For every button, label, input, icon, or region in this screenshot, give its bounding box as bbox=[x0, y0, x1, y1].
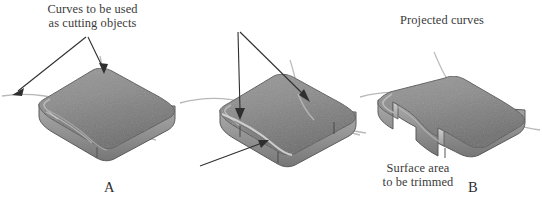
figure-trim-surface: Curves to be used as cutting objects A bbox=[0, 0, 542, 203]
panel-c: C bbox=[360, 0, 542, 203]
panel-c-graphic bbox=[360, 0, 542, 203]
cutting-curves-arrow-right-shaft bbox=[88, 37, 102, 66]
panel-a: Curves to be used as cutting objects A bbox=[0, 0, 182, 203]
cutting-curves-arrow-left-head bbox=[12, 88, 24, 96]
cut-wall-left bbox=[393, 102, 398, 119]
cut-wall-right bbox=[438, 128, 444, 146]
panel-letter-a: A bbox=[104, 179, 115, 196]
annotation-cutting-curves-line2: as cutting objects bbox=[25, 16, 160, 30]
surface-trimmed-arrow-shaft bbox=[200, 143, 262, 166]
panel-a-graphic bbox=[0, 0, 182, 203]
panel-b: Projected curves Surface area to be trim… bbox=[178, 0, 368, 203]
panel-b-graphic bbox=[178, 0, 368, 203]
annotation-cutting-curves-line1: Curves to be used bbox=[25, 2, 160, 16]
annotation-cutting-curves: Curves to be used as cutting objects bbox=[25, 2, 160, 30]
